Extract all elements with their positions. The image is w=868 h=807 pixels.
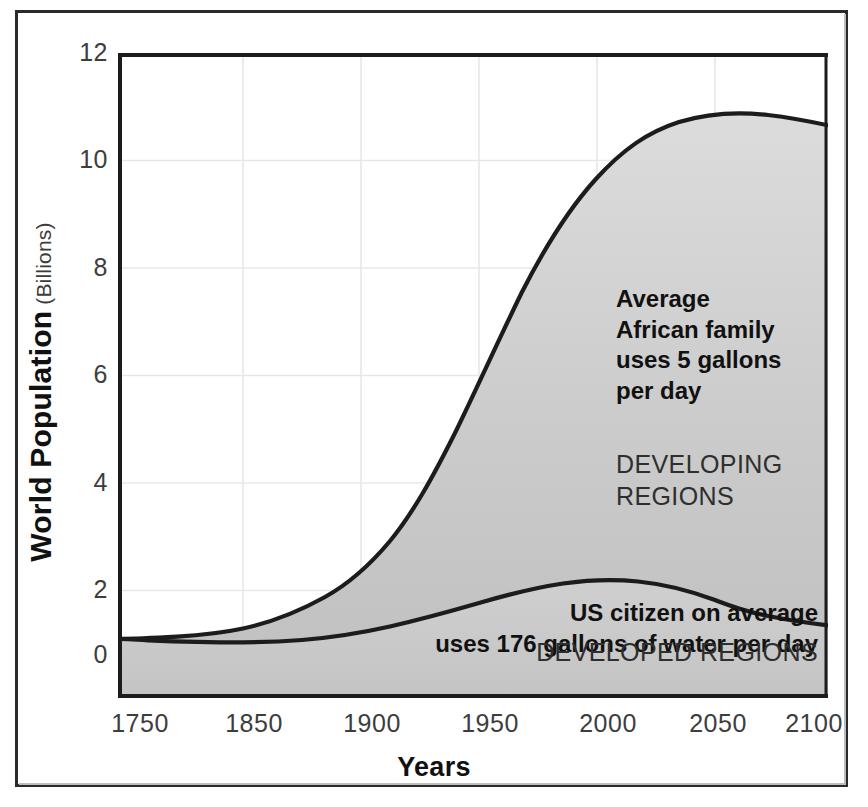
y-tick-labels: 12 10 8 6 4 2 0: [62, 0, 108, 807]
label-developed-regions: DEVELOPED REGIONS: [536, 636, 818, 668]
chart-figure: World Population(Billions) 12 10 8 6 4 2…: [0, 0, 868, 807]
annotation-us-line1: US citizen on average: [435, 598, 818, 629]
annotation-african-line1: Average: [616, 284, 836, 315]
y-axis-title-main: World Population: [24, 311, 57, 562]
label-developing-line2: REGIONS: [616, 480, 836, 512]
y-tick-0: 0: [64, 640, 108, 669]
label-developing-regions: DEVELOPING REGIONS: [616, 448, 836, 512]
x-tick-2000: 2000: [579, 709, 637, 738]
y-tick-4: 4: [64, 468, 108, 497]
y-tick-8: 8: [64, 253, 108, 282]
y-axis-title-units: (Billions): [32, 222, 55, 305]
x-tick-2100: 2100: [785, 709, 843, 738]
x-tick-labels: 1750 1850 1900 1950 2000 2050 2100: [0, 709, 868, 745]
annotation-african-family: Average African family uses 5 gallons pe…: [616, 284, 836, 407]
y-tick-12: 12: [64, 38, 108, 67]
y-axis-title: World Population(Billions): [24, 112, 58, 672]
y-tick-2: 2: [64, 575, 108, 604]
x-tick-1950: 1950: [461, 709, 519, 738]
annotation-african-line4: per day: [616, 376, 836, 407]
x-axis-title: Years: [0, 752, 868, 783]
x-tick-1850: 1850: [225, 709, 283, 738]
x-tick-1900: 1900: [343, 709, 401, 738]
x-tick-2050: 2050: [689, 709, 747, 738]
label-developing-line1: DEVELOPING: [616, 448, 836, 480]
x-tick-1750: 1750: [111, 709, 169, 738]
annotation-african-line2: African family: [616, 315, 836, 346]
y-tick-10: 10: [64, 145, 108, 174]
y-tick-6: 6: [64, 360, 108, 389]
annotation-african-line3: uses 5 gallons: [616, 345, 836, 376]
